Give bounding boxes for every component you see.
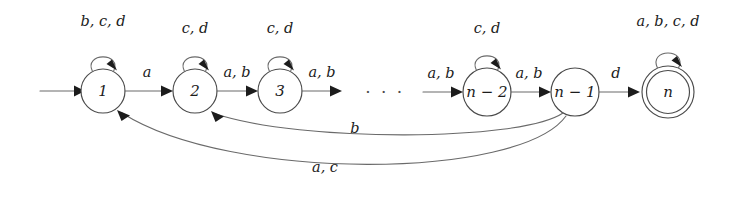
state-n-minus-1[interactable]: n − 1	[551, 68, 599, 116]
self-loop-state-1-label: b, c, d	[80, 13, 125, 29]
self-loop-state-n: a, b, c, d	[637, 13, 700, 68]
self-loop-state-1: b, c, d	[80, 13, 125, 72]
self-loop-state-n-minus-2: c, d	[474, 20, 501, 71]
transition-n-minus-1-to-2-return: b	[211, 111, 563, 136]
state-n-minus-1-label: n − 1	[554, 83, 595, 101]
transition-2-to-3: a, b	[217, 64, 258, 97]
ellipsis: · · ·	[365, 82, 405, 102]
transition-3-to-gap: a, b	[302, 64, 342, 97]
transition-gap-to-n-minus-2: a, b	[423, 65, 463, 98]
state-1-label: 1	[98, 82, 108, 100]
state-2-label: 2	[189, 82, 200, 100]
transition-n-minus-1-to-n-label: d	[611, 65, 620, 81]
transition-3-to-gap-label: a, b	[308, 64, 335, 80]
self-loop-state-n-label: a, b, c, d	[637, 13, 700, 29]
transition-n-minus-2-to-n-minus-1: a, b	[511, 65, 551, 98]
self-loop-state-3-label: c, d	[267, 20, 294, 36]
transition-gap-to-n-minus-2-label: a, b	[427, 65, 454, 81]
state-3-label: 3	[275, 82, 285, 100]
transition-n-minus-1-to-2-return-label: b	[350, 120, 359, 136]
transition-1-to-2-label: a	[143, 64, 152, 80]
transition-n-minus-1-to-1-return: a, c	[117, 110, 566, 175]
automaton-figure: 1 b, c, d 2 c, d 3 c, d	[0, 0, 743, 199]
state-3[interactable]: 3	[258, 69, 302, 113]
transition-n-minus-2-to-n-minus-1-label: a, b	[515, 65, 542, 81]
state-n-minus-2[interactable]: n − 2	[463, 68, 511, 116]
self-loop-state-2-label: c, d	[182, 20, 209, 36]
state-n-minus-2-label: n − 2	[466, 83, 507, 101]
self-loop-state-3: c, d	[267, 20, 294, 72]
transition-1-to-2: a	[125, 64, 173, 97]
transition-2-to-3-label: a, b	[223, 64, 250, 80]
start-arrow	[40, 86, 85, 97]
self-loop-state-2: c, d	[182, 20, 209, 72]
state-n[interactable]: n	[642, 66, 694, 118]
automaton-diagram: 1 b, c, d 2 c, d 3 c, d	[0, 0, 743, 199]
state-n-label: n	[663, 83, 673, 101]
transition-n-minus-1-to-n: d	[599, 65, 640, 98]
state-2[interactable]: 2	[173, 69, 217, 113]
self-loop-state-n-minus-2-label: c, d	[474, 20, 501, 36]
state-1[interactable]: 1	[81, 69, 125, 113]
transition-n-minus-1-to-1-return-label: a, c	[312, 159, 338, 175]
